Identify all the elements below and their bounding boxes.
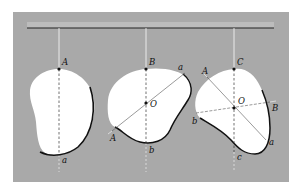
label-b: b <box>149 145 154 155</box>
support-bar-hatch <box>27 22 274 28</box>
label-b: b <box>192 116 197 126</box>
center-of-gravity-suspension-diagram: A a B a O A b C A O B b a c <box>0 0 303 188</box>
center-point-O <box>232 106 235 109</box>
label-A: A <box>201 66 208 76</box>
label-O: O <box>238 96 245 106</box>
suspension-point-A <box>57 67 60 70</box>
label-a: a <box>62 155 67 165</box>
label-a: a <box>269 137 274 147</box>
label-A: A <box>109 133 116 143</box>
label-O: O <box>150 99 157 109</box>
center-point-O <box>144 101 147 104</box>
suspension-point-C <box>232 67 235 70</box>
label-a: a <box>178 62 183 72</box>
label-B: B <box>271 103 278 113</box>
label-A: A <box>61 57 68 67</box>
label-B: B <box>148 57 155 67</box>
suspension-point-B <box>144 67 147 70</box>
label-c: c <box>237 152 242 162</box>
label-C: C <box>237 57 244 67</box>
